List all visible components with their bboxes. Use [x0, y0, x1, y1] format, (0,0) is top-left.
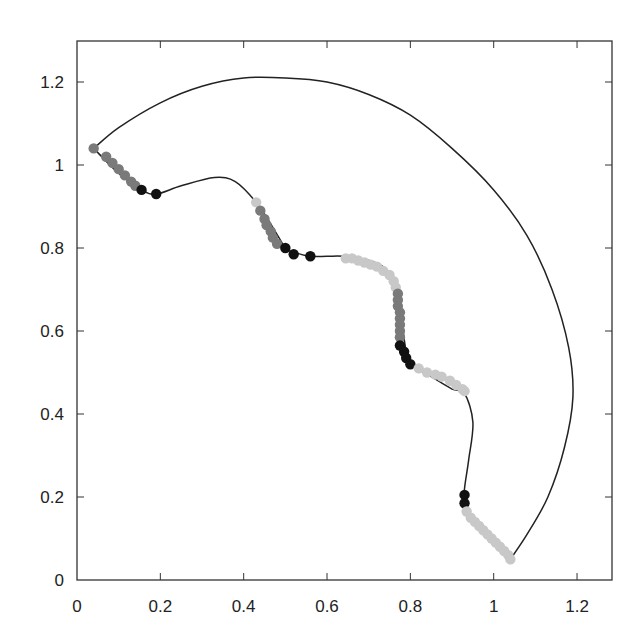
marker-black: [280, 243, 290, 253]
marker-black: [136, 185, 146, 195]
chart: 00.20.40.60.811.2 00.20.40.60.811.2: [0, 0, 640, 642]
marker-light: [505, 554, 515, 564]
marker-light: [459, 386, 469, 396]
marker-gray: [88, 143, 98, 153]
x-tick-label: 0.2: [149, 597, 173, 616]
x-tick-label: 1: [489, 597, 498, 616]
marker-black: [288, 249, 298, 259]
x-tick-label: 0.8: [399, 597, 423, 616]
marker-black: [305, 251, 315, 261]
y-tick-label: 0.6: [40, 322, 64, 341]
y-tick-label: 1: [55, 156, 64, 175]
y-tick-label: 0.8: [40, 239, 64, 258]
y-tick-label: 0: [55, 571, 64, 590]
x-tick-label: 1.2: [565, 597, 589, 616]
y-tick-label: 1.2: [40, 73, 64, 92]
x-tick-label: 0.4: [232, 597, 256, 616]
plot-frame: [77, 41, 612, 580]
y-axis-tick-labels: 00.20.40.60.811.2: [40, 73, 64, 590]
x-tick-label: 0.6: [315, 597, 339, 616]
y-tick-label: 0.2: [40, 488, 64, 507]
y-tick-label: 0.4: [40, 405, 64, 424]
marker-black: [151, 189, 161, 199]
x-tick-label: 0: [72, 597, 81, 616]
x-axis-tick-labels: 00.20.40.60.811.2: [72, 597, 589, 616]
